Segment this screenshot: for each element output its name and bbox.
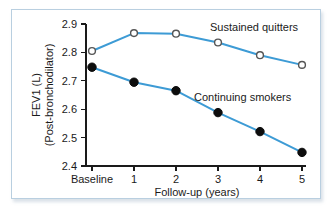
data-point-quitters-1 bbox=[131, 30, 138, 37]
series-markers-sustained-quitters bbox=[89, 30, 306, 69]
annotation-continuing-smokers: Continuing smokers bbox=[194, 91, 292, 103]
y-tick-label-2.7: 2.7 bbox=[62, 75, 77, 87]
y-tick-label-2.9: 2.9 bbox=[62, 18, 77, 30]
data-point-smokers-5 bbox=[298, 148, 306, 156]
x-axis-title: Follow-up (years) bbox=[155, 186, 240, 198]
data-point-quitters-2 bbox=[173, 30, 180, 37]
x-tick-label-4: 4 bbox=[257, 173, 263, 185]
x-tick-label-2: 2 bbox=[173, 173, 179, 185]
x-tick-group: Baseline 1 2 3 4 5 bbox=[71, 166, 305, 185]
data-point-smokers-1 bbox=[130, 78, 138, 86]
y-axis-title-line1: FEV1 (L) bbox=[30, 73, 42, 117]
y-tick-label-2.5: 2.5 bbox=[62, 132, 77, 144]
data-point-quitters-3 bbox=[215, 39, 222, 46]
data-point-quitters-5 bbox=[299, 62, 306, 69]
x-tick-label-baseline: Baseline bbox=[71, 173, 113, 185]
x-tick-label-5: 5 bbox=[299, 173, 305, 185]
data-point-smokers-3 bbox=[214, 108, 222, 116]
data-point-quitters-4 bbox=[257, 52, 264, 59]
y-tick-label-2.6: 2.6 bbox=[62, 103, 77, 115]
series-line-continuing-smokers bbox=[92, 67, 302, 152]
x-tick-label-3: 3 bbox=[215, 173, 221, 185]
data-point-smokers-baseline bbox=[88, 63, 96, 71]
y-axis-title-line2: (Post-bronchodilator) bbox=[43, 44, 55, 147]
data-point-smokers-2 bbox=[172, 87, 180, 95]
line-chart: 2.4 2.5 2.6 2.7 2.8 2.9 Baseline 1 2 3 4… bbox=[12, 10, 320, 198]
annotation-sustained-quitters: Sustained quitters bbox=[210, 21, 299, 33]
series-line-sustained-quitters bbox=[92, 33, 302, 65]
figure-frame: 2.4 2.5 2.6 2.7 2.8 2.9 Baseline 1 2 3 4… bbox=[11, 9, 321, 199]
y-tick-label-2.8: 2.8 bbox=[62, 46, 77, 58]
y-tick-label-2.4: 2.4 bbox=[62, 160, 77, 172]
x-tick-label-1: 1 bbox=[131, 173, 137, 185]
data-point-smokers-4 bbox=[256, 127, 264, 135]
data-point-quitters-baseline bbox=[89, 48, 96, 55]
y-tick-group: 2.4 2.5 2.6 2.7 2.8 2.9 bbox=[62, 18, 86, 172]
